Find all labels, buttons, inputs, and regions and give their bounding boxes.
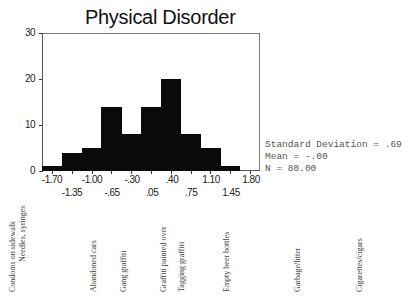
y-tick-label: 10 (15, 119, 35, 130)
item-label: Gang graffiti (119, 251, 128, 292)
histogram-bar (181, 134, 201, 171)
x-tick (191, 171, 192, 174)
histogram-bar (101, 107, 121, 171)
x-tick (230, 171, 231, 174)
histogram-bar (200, 148, 220, 171)
x-tick-label: .05 (146, 187, 158, 198)
x-tick-label: -1.70 (42, 174, 62, 185)
x-tick (171, 171, 172, 174)
x-tick-label: .75 (185, 187, 197, 198)
item-label: Abandoned cars (89, 240, 98, 292)
n-text: N = 80.00 (265, 163, 402, 175)
y-tick (39, 171, 43, 172)
x-tick (151, 171, 152, 174)
chart-title: Physical Disorder (85, 6, 236, 29)
histogram-bar (82, 148, 102, 171)
y-tick-label: 0 (15, 165, 35, 176)
x-tick-label: -1.00 (82, 174, 102, 185)
item-label: Tagging graffiti (177, 242, 186, 292)
histogram-bar (141, 107, 161, 171)
x-tick (131, 171, 132, 174)
std-dev-text: Standard Deviation = .69 (265, 139, 402, 151)
x-tick (210, 171, 211, 174)
x-tick (111, 171, 112, 174)
item-labels: Condoms on sidewalk Needles, syringes Ab… (0, 205, 414, 298)
x-tick (52, 171, 53, 174)
x-tick-label: 1.45 (222, 187, 239, 198)
mean-text: Mean = -.00 (265, 151, 402, 163)
item-label: Garbage/litter (293, 248, 302, 292)
x-tick-label: -1.35 (62, 187, 82, 198)
histogram-bar (62, 153, 82, 171)
item-label: Cigarettes/cigars (355, 238, 364, 292)
y-tick-label: 30 (15, 27, 35, 38)
item-label: Graffiti painted over (159, 226, 168, 292)
item-label: Empty beer bottles (222, 232, 231, 292)
x-tick-label: 1.80 (242, 174, 259, 185)
histogram-bar (161, 79, 181, 171)
x-tick (92, 171, 93, 174)
summary-stats: Standard Deviation = .69Mean = -.00N = 8… (265, 139, 402, 175)
x-tick-label: -.30 (124, 174, 139, 185)
x-tick-label: -.65 (104, 187, 119, 198)
item-label: Needles, syringes (18, 206, 27, 262)
x-tick (250, 171, 251, 174)
x-tick-label: .40 (166, 174, 178, 185)
y-tick-label: 20 (15, 73, 35, 84)
x-tick (72, 171, 73, 174)
item-label: Condoms on sidewalk (8, 221, 17, 292)
histogram-bar (121, 134, 141, 171)
x-tick-label: 1.10 (202, 174, 219, 185)
